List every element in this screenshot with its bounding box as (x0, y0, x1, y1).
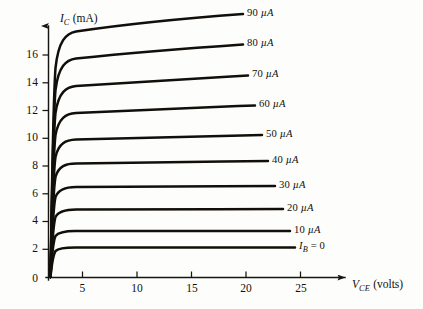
curve-label-90uA: 90 µA (247, 7, 274, 18)
ib-zero-subscript: B (303, 245, 308, 254)
curve-label-80uA: 80 µA (247, 37, 274, 48)
curve-label-10uA-value: 10 (294, 224, 305, 235)
curve-40uA (51, 161, 269, 277)
curve-10uA (51, 231, 291, 277)
curve-label-30uA: 30 µA (279, 179, 306, 190)
x-axis-symbol: V (352, 278, 359, 290)
curve-label-60uA: 60 µA (259, 98, 286, 109)
curve-label-ib-zero: IB = 0 (299, 240, 325, 254)
characteristic-curves (51, 14, 296, 277)
y-axis-title: IC(mA) (60, 12, 98, 27)
curve-label-50uA-unit: µA (280, 128, 293, 139)
x-tick-label-15: 15 (179, 282, 205, 294)
curve-label-20uA-value: 20 (287, 202, 298, 213)
curve-label-60uA-unit: µA (273, 98, 286, 109)
curve-label-20uA: 20 µA (287, 202, 314, 213)
curve-label-60uA-value: 60 (259, 98, 270, 109)
curve-label-70uA: 70 µA (252, 68, 279, 79)
y-tick-marks (43, 55, 49, 249)
y-tick-label-8: 8 (14, 159, 38, 171)
curve-ib-zero (51, 248, 296, 278)
y-tick-label-0: 0 (14, 272, 38, 284)
y-tick-label-16: 16 (14, 48, 38, 60)
y-tick-label-14: 14 (14, 76, 38, 88)
curve-label-30uA-unit: µA (293, 179, 306, 190)
x-axis-subscript: CE (359, 284, 370, 293)
x-tick-label-25: 25 (288, 282, 314, 294)
x-tick-marks (83, 272, 301, 278)
ib-zero-equals: = 0 (311, 240, 325, 251)
curve-label-30uA-value: 30 (279, 179, 290, 190)
curve-label-10uA-unit: µA (308, 224, 321, 235)
x-tick-label-10: 10 (124, 282, 150, 294)
curve-label-80uA-unit: µA (261, 37, 274, 48)
curve-50uA (51, 135, 263, 277)
plot-canvas (0, 0, 423, 309)
y-tick-label-10: 10 (14, 131, 38, 143)
curve-label-80uA-value: 80 (247, 37, 258, 48)
y-axis-unit: (mA) (70, 12, 98, 24)
y-tick-label-12: 12 (14, 104, 38, 116)
x-axis-title: VCE(volts) (352, 278, 403, 293)
curve-20uA (51, 209, 284, 277)
curve-label-90uA-unit: µA (261, 7, 274, 18)
curve-label-10uA: 10 µA (294, 224, 321, 235)
x-tick-label-20: 20 (233, 282, 259, 294)
curve-label-70uA-value: 70 (252, 68, 263, 79)
y-tick-label-6: 6 (14, 187, 38, 199)
y-tick-label-2: 2 (14, 242, 38, 254)
transistor-characteristics-figure: IC(mA) VCE(volts) 16 14 12 10 8 6 4 2 0 … (0, 0, 423, 309)
x-tick-label-5: 5 (70, 282, 95, 294)
curve-label-40uA-unit: µA (286, 154, 299, 165)
y-axis-subscript: C (64, 18, 70, 27)
curve-label-20uA-unit: µA (301, 202, 314, 213)
curve-label-70uA-unit: µA (266, 68, 279, 79)
curve-label-50uA-value: 50 (266, 128, 277, 139)
curve-label-90uA-value: 90 (247, 7, 258, 18)
y-tick-label-4: 4 (14, 214, 38, 226)
curve-label-40uA-value: 40 (272, 154, 283, 165)
curve-label-40uA: 40 µA (272, 154, 299, 165)
curve-label-50uA: 50 µA (266, 128, 293, 139)
curve-90uA (51, 14, 244, 277)
curve-60uA (51, 106, 256, 278)
x-axis-unit: (volts) (370, 278, 403, 290)
